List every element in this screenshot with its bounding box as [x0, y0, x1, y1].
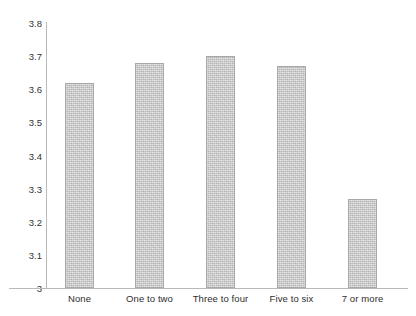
plot-area [47, 23, 408, 288]
x-axis-category-label: One to two [126, 293, 173, 304]
bar [206, 56, 235, 288]
bar [135, 63, 164, 288]
y-axis-tick-label: 3.2 [0, 216, 42, 227]
y-axis-tick-label: 3.3 [0, 183, 42, 194]
y-axis-tick-label: 3.8 [0, 18, 42, 29]
x-axis-category-label: Five to six [270, 293, 314, 304]
bar [65, 83, 94, 288]
y-axis-tick-label: 3.1 [0, 249, 42, 260]
bar-chart: 3.83.73.63.53.43.33.23.13 NoneOne to two… [0, 0, 416, 316]
y-axis-tick-labels: 3.83.73.63.53.43.33.23.13 [0, 0, 42, 316]
x-axis-line [9, 288, 408, 289]
y-axis-tick-label: 3.6 [0, 84, 42, 95]
bar [277, 66, 306, 288]
x-axis-category-label: None [68, 293, 91, 304]
y-axis-tick-label: 3.4 [0, 150, 42, 161]
x-axis-category-label: 7 or more [342, 293, 384, 304]
y-axis-tick-label: 3.7 [0, 51, 42, 62]
x-axis-category-label: Three to four [193, 293, 249, 304]
bar [348, 199, 377, 288]
y-axis-tick-label: 3.5 [0, 117, 42, 128]
